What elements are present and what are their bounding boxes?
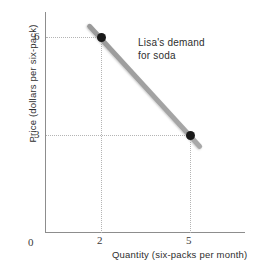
annotation-line-1: Lisa's demand [138,37,205,50]
x-tick-label-2: 2 [97,234,103,246]
data-point-b [186,131,195,140]
y-axis-line [45,12,46,233]
gridline-price-3 [46,135,191,136]
gridline-price-6 [46,37,102,38]
x-axis-title: Quantity (six-packs per month) [112,249,247,260]
x-tick-label-5: 5 [186,234,192,246]
data-point-a [97,33,106,42]
gridline-quantity-5 [190,135,191,233]
x-axis-line [45,232,245,233]
gridline-quantity-2 [101,37,102,233]
demand-curve-annotation: Lisa's demand for soda [138,37,205,62]
y-axis-title: Price (dollars per six-pack) [27,4,38,164]
annotation-line-2: for soda [138,50,205,63]
demand-curve-chart: 6 3 0 2 5 Price (dollars per six-pack) Q… [0,0,258,266]
x-tick-label-0: 0 [28,236,34,248]
